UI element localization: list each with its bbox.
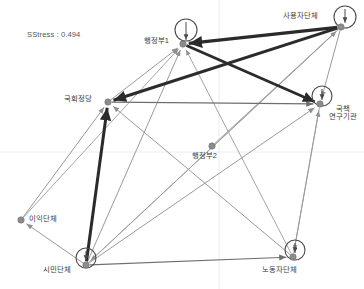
graph-edge (23, 107, 104, 217)
graph-node-employer[interactable] (338, 24, 344, 30)
graph-edge (113, 106, 290, 254)
graph-edge (111, 48, 178, 100)
graph-node-admin1[interactable] (180, 41, 186, 47)
graph-edge (90, 257, 287, 265)
graph-node-interest[interactable] (18, 217, 24, 223)
network-graph-svg (0, 0, 364, 289)
graph-node-admin2[interactable] (209, 143, 215, 149)
graph-edge (24, 49, 179, 217)
graph-node-civic[interactable] (83, 262, 89, 268)
graph-node-party[interactable] (105, 99, 111, 105)
graph-edge (26, 224, 82, 263)
edge-layer (23, 27, 340, 264)
graph-edge (322, 31, 340, 98)
graph-edge (294, 108, 319, 251)
node-layer (18, 24, 344, 268)
graph-edge (89, 108, 314, 263)
graph-node-research[interactable] (317, 101, 323, 107)
graph-edge (87, 108, 108, 261)
graph-edge (112, 102, 314, 104)
sstress-annotation: SStress : 0.494 (27, 30, 80, 39)
mds-network-plot: 행정부1사용자단체국회정당국책 연구기관행정부2이익단체시민단체노동자단체 SS… (0, 0, 364, 289)
graph-node-worker[interactable] (290, 254, 296, 260)
graph-edge (186, 46, 314, 102)
